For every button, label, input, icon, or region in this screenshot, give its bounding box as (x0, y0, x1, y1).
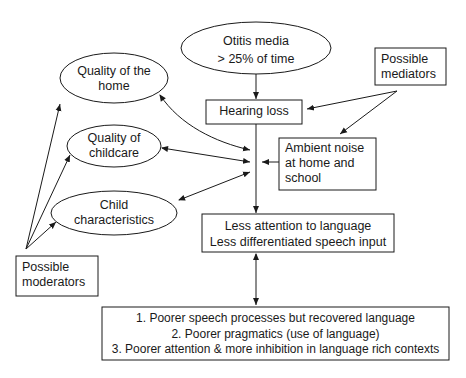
edge-mediators-to-hearing (307, 91, 397, 109)
quality-childcare-label: Quality of childcare (64, 131, 164, 161)
edge-mediators-to-ambient (340, 91, 397, 134)
otitis-media-label: Otitis media > 25% of time (196, 32, 316, 68)
edge-child-main (179, 172, 250, 200)
hearing-loss-label: Hearing loss (206, 104, 302, 119)
possible-mediators-label: Possible mediators (381, 52, 436, 82)
child-characteristics-label: Child characteristics (64, 198, 164, 228)
edge-moderators-home (26, 104, 60, 249)
quality-home-label: Quality of the home (64, 64, 164, 94)
possible-moderators-label: Possible moderators (22, 260, 85, 290)
edge-childcare-main (162, 148, 250, 162)
less-attention-label: Less attention to language Less differen… (202, 218, 394, 250)
edge-moderators-child (26, 222, 56, 249)
outcomes-label: 1. Poorer speech processes but recovered… (102, 311, 449, 358)
ambient-noise-label: Ambient noise at home and school (285, 141, 364, 186)
